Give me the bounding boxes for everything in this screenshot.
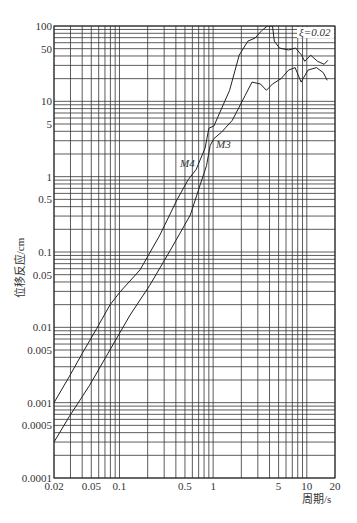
y-tick-label: 5 [47,118,53,130]
grid-lines [54,26,335,478]
displacement-response-spectrum-chart: 1005010510.50.10.050.010.0050.0010.00050… [0,0,357,523]
x-tick-label: 0.1 [113,480,127,492]
y-tick-label: 0.01 [33,321,52,333]
x-tick-label: 20 [330,480,342,492]
x-axis-label: 周期/s [302,493,331,505]
x-tick-label: 0.5 [178,480,192,492]
x-tick-label: 10 [301,480,313,492]
x-tick-label: 0.05 [82,480,102,492]
series-label-m4: M4 [179,157,195,169]
y-axis-label: 位移反应/cm [13,237,26,298]
x-tick-label: 1 [210,480,216,492]
y-tick-label: 50 [41,43,53,55]
y-tick-label: 100 [36,20,53,32]
series-label-m3: M3 [215,138,231,150]
x-tick-label: 5 [276,480,282,492]
damping-annotation: ξ=0.02 [299,26,331,39]
x-tick-label: 0.02 [44,480,63,492]
y-tick-label: 0.0005 [22,419,53,431]
y-tick-label: 0.005 [27,344,52,356]
y-tick-label: 10 [41,95,53,107]
y-tick-label: 0.05 [33,269,53,281]
y-tick-label: 0.001 [27,397,52,409]
x-axis-tick-labels: 0.020.050.10.5151020 [44,480,341,492]
y-tick-label: 1 [47,171,53,183]
y-tick-label: 0.5 [38,193,52,205]
y-tick-label: 0.1 [38,246,52,258]
y-axis-tick-labels: 1005010510.50.10.050.010.0050.0010.00050… [22,20,53,484]
